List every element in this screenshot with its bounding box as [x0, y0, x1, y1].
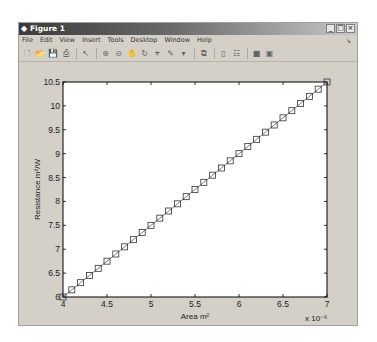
- x-tick-label: 4: [61, 299, 66, 309]
- y-tick-label: 8: [55, 196, 60, 206]
- y-tick-label: 8.5: [48, 173, 60, 183]
- x-tick-label: 5.5: [189, 299, 201, 309]
- y-tick-label: 10: [51, 101, 61, 111]
- y-tick-label: 10.5: [43, 77, 60, 87]
- x-tick-label: 6: [237, 299, 242, 309]
- x-tick-label: 6.5: [277, 299, 289, 309]
- y-tick-label: 9.5: [48, 125, 60, 135]
- x-tick-label: 4.5: [101, 299, 113, 309]
- y-axis-label: Resistance m²/W: [33, 159, 42, 220]
- y-tick-label: 9: [55, 149, 60, 159]
- x-axis-label: Area m²: [181, 312, 210, 321]
- y-tick-label: 7: [55, 244, 60, 254]
- x-tick-label: 7: [325, 299, 330, 309]
- y-tick-label: 7.5: [48, 220, 60, 230]
- y-tick-label: 6: [55, 292, 60, 302]
- y-tick-label: 6.5: [48, 268, 60, 278]
- x-tick-label: 5: [149, 299, 154, 309]
- plot-area: 44.555.566.5766.577.588.599.51010.5Area …: [0, 0, 377, 342]
- x-axis-multiplier: x 10⁻⁶: [305, 314, 327, 323]
